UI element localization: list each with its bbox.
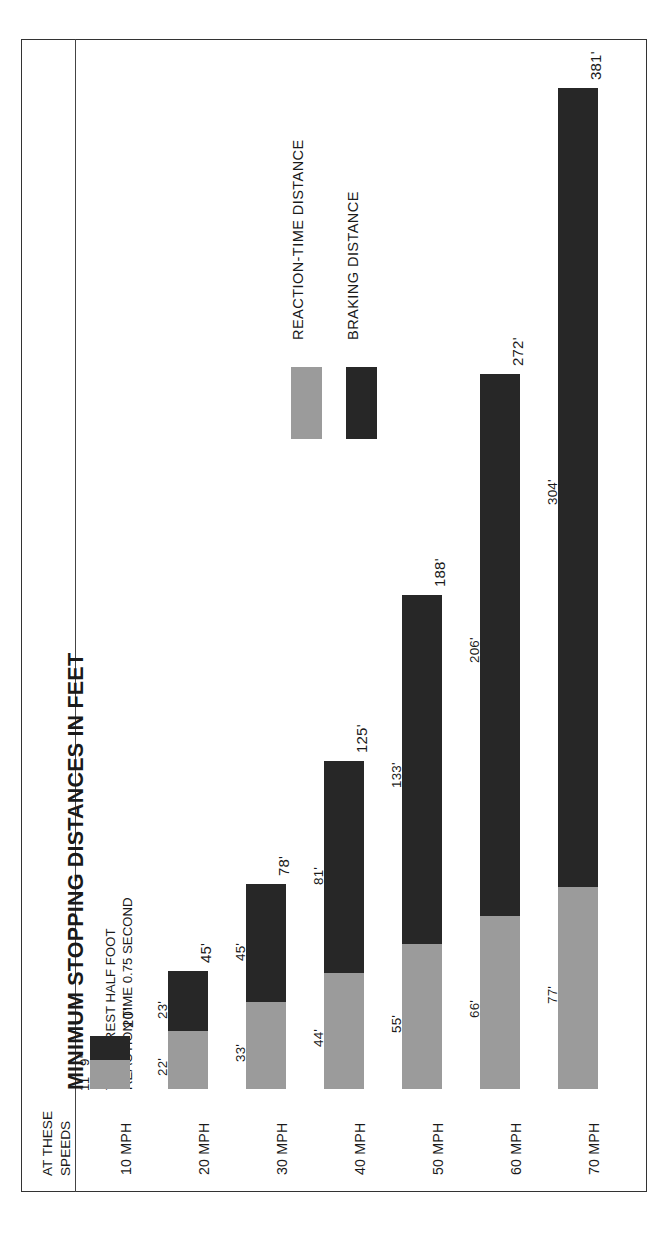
- value-braking-70-mph: 304': [546, 480, 559, 506]
- bar-segment-braking: [480, 374, 520, 915]
- legend-label-braking: BRAKING DISTANCE: [346, 191, 361, 340]
- bar-segment-reaction-time: [246, 1002, 286, 1089]
- bar-20-mph: [168, 971, 208, 1089]
- value-total-30-mph: 78': [276, 856, 291, 876]
- bar-segment-reaction-time: [480, 916, 520, 1089]
- value-reaction-20-mph: 22': [156, 1058, 169, 1076]
- value-braking-50-mph: 133': [390, 762, 403, 788]
- speed-label-70-mph: 70 MPH: [587, 1123, 601, 1175]
- value-braking-10-mph: 9': [78, 1056, 91, 1066]
- value-total-70-mph: 381': [588, 51, 603, 80]
- axis-caption-line-1: AT THESE: [41, 1111, 55, 1176]
- value-total-10-mph: 20': [120, 1008, 135, 1028]
- bar-segment-braking: [558, 88, 598, 887]
- bar-30-mph: [246, 884, 286, 1089]
- speed-label-40-mph: 40 MPH: [353, 1123, 367, 1175]
- value-braking-60-mph: 206': [468, 637, 481, 663]
- bar-segment-braking: [90, 1036, 130, 1060]
- bar-segment-reaction-time: [168, 1031, 208, 1089]
- value-total-20-mph: 45': [198, 943, 213, 963]
- bar-70-mph: [558, 88, 598, 1089]
- value-reaction-10-mph: 11': [78, 1073, 91, 1090]
- speed-label-50-mph: 50 MPH: [431, 1123, 445, 1175]
- legend-swatch-braking: [346, 367, 377, 439]
- bar-segment-reaction-time: [324, 973, 364, 1089]
- bar-50-mph: [402, 595, 442, 1089]
- bar-segment-braking: [402, 595, 442, 944]
- value-braking-30-mph: 45': [234, 943, 247, 961]
- value-total-40-mph: 125': [354, 724, 369, 753]
- speed-label-60-mph: 60 MPH: [509, 1123, 523, 1175]
- value-total-60-mph: 272': [510, 338, 525, 367]
- bar-segment-reaction-time: [558, 887, 598, 1089]
- speed-label-30-mph: 30 MPH: [275, 1123, 289, 1175]
- legend-label-reaction-time: REACTION-TIME DISTANCE: [291, 139, 306, 340]
- bar-40-mph: [324, 761, 364, 1089]
- bar-segment-braking: [324, 761, 364, 974]
- value-reaction-30-mph: 33': [234, 1044, 247, 1062]
- speed-label-10-mph: 10 MPH: [119, 1123, 133, 1175]
- value-braking-20-mph: 23': [156, 1001, 169, 1019]
- bar-segment-braking: [246, 884, 286, 1002]
- bar-60-mph: [480, 374, 520, 1089]
- bar-segment-reaction-time: [90, 1060, 130, 1089]
- bar-10-mph: [90, 1036, 130, 1089]
- value-total-50-mph: 188': [432, 558, 447, 587]
- speed-label-20-mph: 20 MPH: [197, 1123, 211, 1175]
- value-reaction-40-mph: 44': [312, 1029, 325, 1047]
- value-braking-40-mph: 81': [312, 867, 325, 885]
- page-title: MINIMUM STOPPING DISTANCES IN FEET: [66, 653, 88, 1090]
- bar-segment-braking: [168, 971, 208, 1031]
- axis-caption-line-2: SPEEDS: [59, 1121, 73, 1176]
- legend-swatch-reaction-time: [291, 367, 322, 439]
- value-reaction-60-mph: 66': [468, 1000, 481, 1018]
- value-reaction-70-mph: 77': [546, 986, 559, 1004]
- value-reaction-50-mph: 55': [390, 1015, 403, 1033]
- bar-segment-reaction-time: [402, 944, 442, 1089]
